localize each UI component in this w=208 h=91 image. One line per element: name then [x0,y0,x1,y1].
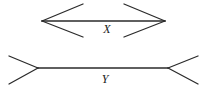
label-x: X [102,22,111,36]
label-y: Y [102,72,110,86]
fin-x-top-left [42,4,83,21]
fin-x-bottom-left [42,21,83,37]
muller-lyer-diagram: X Y [0,0,208,91]
figure-y-group: Y [9,56,198,86]
muller-lyer-figure: X Y [0,0,208,91]
fin-y-top-right [168,56,198,68]
fin-x-top-right [124,4,165,21]
fin-x-bottom-right [124,21,165,37]
fin-y-bottom-left [9,68,38,84]
fin-y-top-left [9,56,38,68]
figure-x-group: X [42,4,165,37]
fin-y-bottom-right [168,68,198,84]
